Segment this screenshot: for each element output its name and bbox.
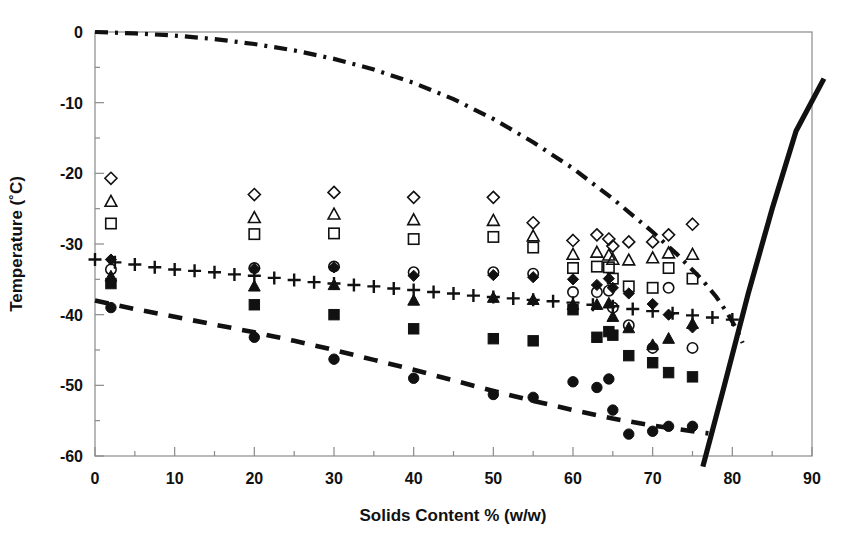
y-tick-label: 0 <box>74 24 83 41</box>
y-tick-label: -60 <box>60 448 83 465</box>
marker-open-diamond <box>408 191 420 203</box>
marker-open-triangle <box>105 195 117 206</box>
marker-plus-series <box>188 264 201 277</box>
y-tick-label: -40 <box>60 307 83 324</box>
marker-filled-circle <box>568 377 578 387</box>
x-tick-label: 80 <box>723 470 741 487</box>
marker-open-triangle <box>623 254 635 265</box>
marker-plus-series <box>347 278 360 291</box>
marker-plus-series <box>467 289 480 302</box>
series-open-triangle <box>105 195 698 265</box>
marker-filled-square <box>106 278 116 288</box>
marker-filled-circle <box>604 374 614 384</box>
y-tick-label: -10 <box>60 95 83 112</box>
marker-filled-square <box>408 324 418 334</box>
marker-plus-series <box>387 282 400 295</box>
marker-filled-square <box>592 332 602 342</box>
x-tick-label: 60 <box>564 470 582 487</box>
marker-open-triangle <box>487 214 499 225</box>
marker-open-triangle <box>527 230 539 241</box>
marker-plus-series <box>268 271 281 284</box>
curves-layer <box>95 32 824 467</box>
x-axis-title: Solids Content % (w/w) <box>360 506 547 525</box>
marker-open-circle <box>663 283 673 293</box>
marker-filled-circle <box>592 382 602 392</box>
marker-filled-triangle <box>663 332 675 343</box>
marker-open-triangle <box>567 248 579 259</box>
marker-filled-circle <box>528 392 538 402</box>
marker-plus-series <box>626 303 639 316</box>
marker-filled-square <box>249 300 259 310</box>
marker-filled-circle <box>663 421 673 431</box>
marker-filled-circle <box>408 373 418 383</box>
marker-open-triangle <box>687 248 699 259</box>
y-axis-title: Temperature (˚C) <box>7 176 26 312</box>
marker-open-diamond <box>487 191 499 203</box>
marker-open-square <box>329 228 339 238</box>
marker-filled-diamond <box>528 272 539 283</box>
marker-open-square <box>663 263 673 273</box>
x-tick-label: 30 <box>325 470 343 487</box>
marker-open-triangle <box>408 214 420 225</box>
marker-plus-series <box>367 280 380 293</box>
marker-open-square <box>568 263 578 273</box>
marker-open-diamond <box>105 172 117 184</box>
phase-diagram-chart: 0-10-20-30-40-50-60 0102030405060708090 … <box>0 0 850 534</box>
marker-plus-series <box>407 283 420 296</box>
marker-open-diamond <box>687 218 699 230</box>
marker-filled-square <box>488 333 498 343</box>
x-tick-label: 20 <box>245 470 263 487</box>
marker-plus-series <box>507 292 520 305</box>
marker-filled-circle <box>624 429 634 439</box>
marker-filled-square <box>687 372 697 382</box>
marker-filled-square <box>528 336 538 346</box>
marker-plus-series <box>288 274 301 287</box>
x-tick-label: 0 <box>91 470 100 487</box>
marker-filled-square <box>663 367 673 377</box>
marker-plus-series <box>308 276 321 289</box>
marker-filled-circle <box>249 332 259 342</box>
marker-filled-circle <box>106 302 116 312</box>
marker-filled-diamond <box>408 270 419 281</box>
marker-open-square <box>106 218 116 228</box>
x-tick-label: 10 <box>166 470 184 487</box>
marker-open-diamond <box>567 234 579 246</box>
x-tick-label: 70 <box>644 470 662 487</box>
y-axis-ticks <box>95 32 104 456</box>
marker-open-triangle <box>328 208 340 219</box>
series-plus-series <box>89 253 739 326</box>
marker-open-square <box>528 242 538 252</box>
marker-filled-circle <box>687 421 697 431</box>
marker-plus-series <box>706 311 719 324</box>
freezing-curve <box>95 32 743 343</box>
marker-filled-circle <box>488 389 498 399</box>
marker-filled-diamond <box>567 274 578 285</box>
marker-open-square <box>249 229 259 239</box>
marker-plus-series <box>128 258 141 271</box>
plot-frame <box>95 32 812 456</box>
marker-open-circle <box>568 287 578 297</box>
marker-filled-square <box>608 330 618 340</box>
marker-open-circle <box>687 343 697 353</box>
marker-plus-series <box>427 286 440 299</box>
marker-plus-series <box>447 287 460 300</box>
marker-filled-circle <box>608 405 618 415</box>
marker-open-square <box>488 232 498 242</box>
marker-open-square <box>592 261 602 271</box>
marker-open-diamond <box>623 236 635 248</box>
marker-open-diamond <box>248 189 260 201</box>
x-tick-label: 90 <box>803 470 821 487</box>
marker-plus-series <box>89 253 102 266</box>
marker-filled-diamond <box>623 288 634 299</box>
marker-filled-circle <box>329 354 339 364</box>
y-tick-label: -20 <box>60 165 83 182</box>
y-axis-tick-labels: 0-10-20-30-40-50-60 <box>60 24 83 465</box>
x-tick-label: 50 <box>484 470 502 487</box>
marker-plus-series <box>148 261 161 274</box>
marker-open-triangle <box>591 246 603 257</box>
marker-filled-square <box>647 358 657 368</box>
marker-plus-series <box>646 305 659 318</box>
x-axis-tick-labels: 0102030405060708090 <box>91 470 821 487</box>
marker-filled-circle <box>647 426 657 436</box>
marker-plus-series <box>547 295 560 308</box>
